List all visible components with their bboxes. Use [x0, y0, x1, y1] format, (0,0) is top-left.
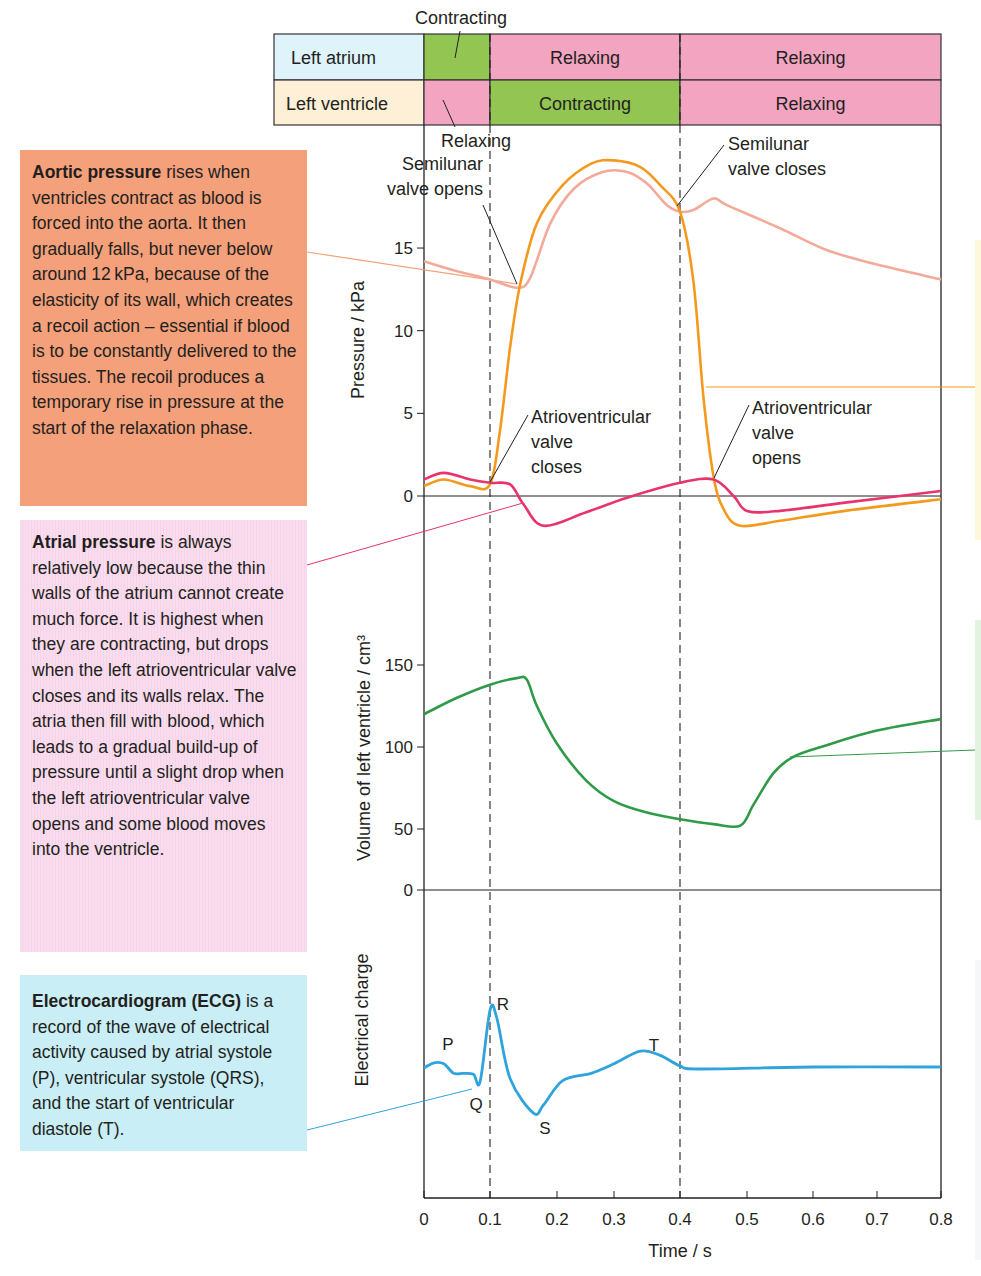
ecg-label-t: T: [649, 1036, 659, 1055]
pressure-tick-label: 10: [394, 322, 413, 341]
pressure-tick-label: 15: [394, 239, 413, 258]
x-axis-label: Time / s: [648, 1241, 711, 1261]
phase-table: Left atriumRelaxingRelaxingLeft ventricl…: [274, 8, 941, 151]
pressure-tick-label: 0: [404, 487, 413, 506]
x-tick-label: 0.7: [865, 1210, 889, 1229]
x-tick-label: 0.6: [801, 1210, 825, 1229]
semilunar-closes-label: valve closes: [728, 159, 826, 179]
x-tick-label: 0.3: [602, 1210, 626, 1229]
x-tick-label: 0.1: [478, 1210, 502, 1229]
av-closes-label: valve: [531, 432, 573, 452]
ecg-label-q: Q: [469, 1095, 482, 1114]
ecg-label-r: R: [497, 995, 509, 1014]
atrium-contracting-callout: Contracting: [415, 8, 507, 28]
ecg-curve: [424, 1005, 941, 1115]
phase-state-label: Relaxing: [550, 48, 620, 68]
volume-axis-label: Volume of left ventricle / cm³: [354, 635, 374, 861]
ecg-label-p: P: [442, 1035, 453, 1054]
ventricle-relaxing-callout: Relaxing: [441, 131, 511, 151]
phase-row-label: Left atrium: [291, 48, 376, 68]
av-opens-label: valve: [752, 423, 794, 443]
phase-state-label: Relaxing: [775, 94, 845, 114]
chart-axes: 00.10.20.30.40.50.60.70.8Time / s0510150…: [307, 34, 975, 1261]
av-closes-label: closes: [531, 457, 582, 477]
volume-tick-label: 100: [385, 738, 413, 757]
phase-row-label: Left ventricle: [286, 94, 388, 114]
phase-state-label: Relaxing: [775, 48, 845, 68]
x-tick-label: 0.8: [929, 1210, 953, 1229]
av-opens-label: Atrioventricular: [752, 398, 872, 418]
semilunar-opens-label: Semilunar: [402, 154, 483, 174]
pressure-curve: [424, 170, 941, 287]
volume-curve: [424, 677, 941, 827]
chart-labels: Semilunarvalve opensSemilunarvalve close…: [387, 134, 872, 1138]
phase-segment: [424, 80, 490, 125]
av-opens-label: opens: [752, 448, 801, 468]
cardiac-cycle-chart: Left atriumRelaxingRelaxingLeft ventricl…: [0, 0, 981, 1276]
phase-segment: [424, 34, 490, 80]
av-closes-label: Atrioventricular: [531, 407, 651, 427]
pressure-curve: [424, 473, 941, 526]
volume-tick-label: 50: [394, 820, 413, 839]
semilunar-closes-label: Semilunar: [728, 134, 809, 154]
ecg-axis-label: Electrical charge: [352, 953, 372, 1086]
phase-state-label: Contracting: [539, 94, 631, 114]
ecg-label-s: S: [539, 1119, 550, 1138]
semilunar-opens-label: valve opens: [387, 179, 483, 199]
x-tick-label: 0.5: [735, 1210, 759, 1229]
volume-tick-label: 150: [385, 656, 413, 675]
volume-tick-label: 0: [404, 881, 413, 900]
x-tick-label: 0: [419, 1210, 428, 1229]
x-tick-label: 0.2: [545, 1210, 569, 1229]
pressure-axis-label: Pressure / kPa: [348, 280, 368, 399]
pressure-tick-label: 5: [404, 404, 413, 423]
x-tick-label: 0.4: [668, 1210, 692, 1229]
chart-curves: [424, 160, 941, 1114]
pressure-curve: [424, 160, 941, 526]
